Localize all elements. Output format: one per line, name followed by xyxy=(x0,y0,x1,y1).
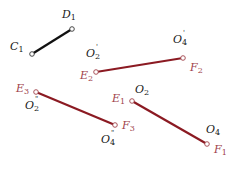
label-base: F xyxy=(190,61,198,74)
label-sub: 2 xyxy=(198,66,203,75)
point-f3 xyxy=(113,123,118,128)
label-o4: O4 xyxy=(206,124,220,137)
label-prime: ' xyxy=(96,44,98,51)
label-wrap: O"2 xyxy=(25,100,39,113)
label-base: F xyxy=(214,143,222,156)
label-d1: D1 xyxy=(62,9,76,22)
label-base: D xyxy=(62,8,71,21)
label-wrap: O'2 xyxy=(86,48,100,61)
label-base: O xyxy=(25,99,34,112)
label-o4-prime: O'4 xyxy=(173,34,187,47)
label-e3: E3 xyxy=(16,83,29,96)
label-base: O xyxy=(135,83,144,96)
label-sub: 2 xyxy=(34,104,39,113)
label-sub: 3 xyxy=(24,87,29,96)
label-f2: F2 xyxy=(190,62,203,75)
label-wrap: O'4 xyxy=(173,34,187,47)
label-o2: O2 xyxy=(135,84,149,97)
label-prime: ' xyxy=(183,30,185,37)
point-c1 xyxy=(30,52,35,57)
label-sub: 1 xyxy=(222,148,227,157)
label-prime: " xyxy=(35,96,38,103)
label-prime: " xyxy=(111,130,114,137)
point-e3 xyxy=(34,90,39,95)
label-base: E xyxy=(80,69,88,82)
label-e1: E1 xyxy=(112,93,125,106)
label-o4-double-prime: O"4 xyxy=(101,134,115,147)
point-e1 xyxy=(130,99,135,104)
label-f3: F3 xyxy=(122,120,135,133)
label-base: O xyxy=(206,123,215,136)
point-f1 xyxy=(205,142,210,147)
point-e2 xyxy=(94,70,99,75)
label-base: O xyxy=(173,33,182,46)
label-sub: 4 xyxy=(182,38,187,47)
label-sub: 3 xyxy=(130,124,135,133)
segment-e2-f2 xyxy=(96,58,183,72)
label-sub: 4 xyxy=(110,138,115,147)
segment-e3-f3 xyxy=(36,92,115,125)
diagram-canvas xyxy=(0,0,238,171)
label-o2-prime: O'2 xyxy=(86,48,100,61)
label-sub: 2 xyxy=(144,88,149,97)
label-sub: 1 xyxy=(71,13,76,22)
point-d1 xyxy=(70,27,75,32)
label-f1: F1 xyxy=(214,144,227,157)
label-wrap: O"4 xyxy=(101,134,115,147)
label-base: O xyxy=(86,47,95,60)
segment-c1-d1 xyxy=(32,29,72,54)
label-sub: 2 xyxy=(88,74,93,83)
label-sub: 2 xyxy=(95,52,100,61)
label-base: E xyxy=(16,82,24,95)
label-sub: 1 xyxy=(18,45,23,54)
label-base: O xyxy=(101,133,110,146)
label-e2: E2 xyxy=(80,70,93,83)
segment-e1-f1 xyxy=(132,101,207,144)
label-base: E xyxy=(112,92,120,105)
label-o2-double-prime: O"2 xyxy=(25,100,39,113)
label-sub: 4 xyxy=(215,128,220,137)
label-base: F xyxy=(122,119,130,132)
label-c1: C1 xyxy=(10,41,24,54)
label-sub: 1 xyxy=(120,97,125,106)
point-f2 xyxy=(181,56,186,61)
